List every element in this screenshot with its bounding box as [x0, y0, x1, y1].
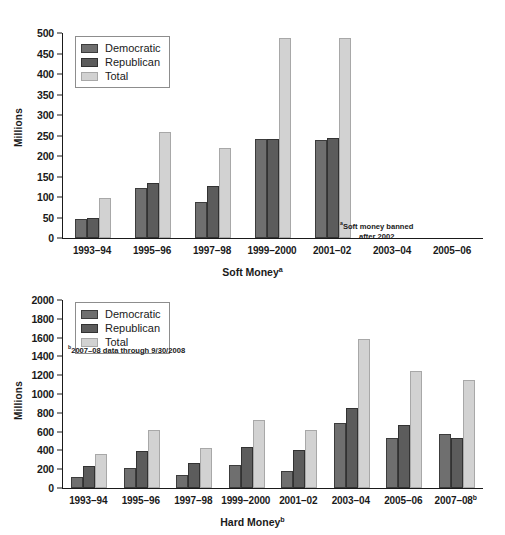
soft-money-legend: Democratic Republican Total — [75, 36, 170, 88]
bar-democratic — [176, 475, 188, 488]
y-tick-label: 150 — [37, 171, 54, 182]
bar-republican — [87, 218, 99, 238]
bar-total — [219, 148, 231, 238]
bar-democratic — [439, 434, 451, 488]
y-tick-label: 1000 — [31, 389, 54, 400]
legend-item-republican: Republican — [81, 321, 161, 335]
y-tick-label: 500 — [37, 28, 54, 39]
y-tick-label: 200 — [37, 151, 54, 162]
y-tick-label: 0 — [48, 483, 54, 494]
bar-total — [253, 420, 265, 488]
bar-republican — [327, 138, 339, 238]
bar-democratic — [255, 139, 267, 238]
bar-republican — [147, 183, 159, 238]
legend-label-republican: Republican — [105, 323, 160, 334]
bar-total — [200, 448, 212, 488]
bar-set — [303, 33, 363, 238]
bar-republican — [293, 450, 305, 488]
legend-label-democratic: Democratic — [105, 309, 161, 320]
y-tick-label: 400 — [37, 445, 54, 456]
bar-group — [303, 33, 363, 238]
bar-republican — [346, 408, 358, 488]
x-tick-label: 1999–2000 — [242, 245, 302, 256]
y-tick-label: 1200 — [31, 370, 54, 381]
y-tick-label: 600 — [37, 426, 54, 437]
legend-swatch-democratic-icon — [81, 310, 98, 319]
bar-set — [168, 300, 221, 488]
x-tick-label-superscript: b — [473, 494, 477, 501]
soft-money-chart: Millions 050100150200250300350400450500 … — [0, 0, 505, 290]
bar-republican — [398, 425, 410, 488]
soft-money-footnote-line-1: aSoft money banned — [340, 222, 413, 232]
bar-set — [423, 33, 483, 238]
legend-swatch-republican-icon — [81, 324, 98, 333]
legend-item-republican: Republican — [81, 55, 161, 69]
x-tick-label: 1997–98 — [167, 495, 220, 506]
bar-total — [99, 198, 111, 238]
soft-money-x-tick-labels: 1993–941995–961997–981999–20002001–02200… — [62, 245, 482, 256]
y-tick-label: 300 — [37, 110, 54, 121]
bar-set — [221, 300, 274, 488]
y-tick-label: 1800 — [31, 314, 54, 325]
bar-group — [363, 33, 423, 238]
soft-money-footnote-line-2: after 2002 — [340, 232, 413, 242]
y-tick-label: 800 — [37, 408, 54, 419]
bar-set — [363, 33, 423, 238]
bar-group — [431, 300, 484, 488]
y-tick-label: 2000 — [31, 295, 54, 306]
y-tick-label: 50 — [43, 212, 54, 223]
x-tick-label: 2005–06 — [377, 495, 430, 506]
bar-republican — [207, 186, 219, 238]
hard-money-x-axis-title-text: Hard Money — [220, 516, 280, 528]
y-tick-label: 1400 — [31, 351, 54, 362]
bar-group — [168, 300, 221, 488]
bar-democratic — [124, 468, 136, 488]
x-tick-label: 1999–2000 — [220, 495, 273, 506]
x-tick-label: 2003–04 — [325, 495, 378, 506]
bar-total — [358, 339, 370, 488]
bar-democratic — [315, 140, 327, 238]
y-tick-label: 450 — [37, 48, 54, 59]
bar-set — [378, 300, 431, 488]
bar-republican — [451, 438, 463, 488]
soft-money-y-axis-title: Millions — [13, 98, 24, 158]
hard-money-x-tick-labels: 1993–941995–961997–981999–20002001–02200… — [62, 495, 482, 506]
hard-money-footnote-text: 2007–08 data through 9/30/2008 — [71, 346, 185, 355]
hard-money-footnote: b2007–08 data through 9/30/2008 — [68, 346, 185, 356]
soft-money-footnote: aSoft money banned after 2002 — [340, 222, 413, 243]
x-tick-label: 1995–96 — [115, 495, 168, 506]
bar-republican — [83, 466, 95, 488]
x-tick-label: 1993–94 — [62, 245, 122, 256]
bar-democratic — [135, 188, 147, 238]
bar-democratic — [229, 465, 241, 489]
hard-money-y-axis-title: Millions — [13, 371, 24, 431]
hard-money-x-axis-title-superscript: b — [280, 516, 284, 524]
hard-money-chart: Millions 0200400600800100012001400160018… — [0, 290, 505, 535]
legend-label-total: Total — [105, 71, 128, 82]
bar-democratic — [71, 477, 83, 488]
x-tick-label: 2001–02 — [272, 495, 325, 506]
y-tick-label: 0 — [48, 233, 54, 244]
x-tick-label: 2001–02 — [302, 245, 362, 256]
bar-group — [273, 300, 326, 488]
bar-group — [378, 300, 431, 488]
bar-total — [410, 371, 422, 488]
bar-group — [221, 300, 274, 488]
bar-democratic — [195, 202, 207, 238]
y-tick-label: 350 — [37, 89, 54, 100]
bar-total — [339, 38, 351, 238]
bar-group — [183, 33, 243, 238]
bar-democratic — [75, 219, 87, 238]
legend-item-democratic: Democratic — [81, 41, 161, 55]
legend-label-republican: Republican — [105, 57, 160, 68]
legend-item-democratic: Democratic — [81, 307, 161, 321]
y-tick-label: 200 — [37, 464, 54, 475]
x-tick-label: 2003–04 — [362, 245, 422, 256]
bar-democratic — [386, 438, 398, 488]
bar-republican — [241, 447, 253, 488]
bar-republican — [136, 451, 148, 488]
bar-set — [243, 33, 303, 238]
bar-group — [243, 33, 303, 238]
bar-total — [159, 132, 171, 238]
y-tick-label: 1600 — [31, 332, 54, 343]
